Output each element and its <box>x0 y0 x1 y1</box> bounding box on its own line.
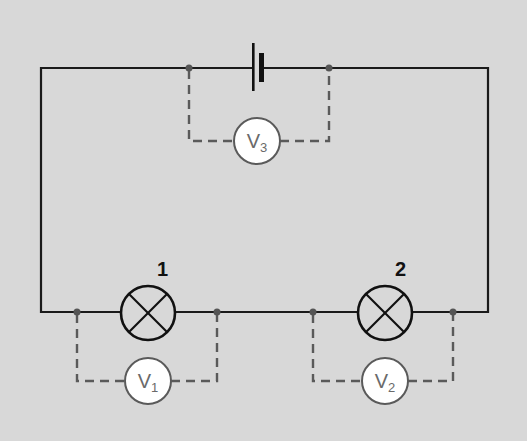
main-circuit-wire <box>41 68 488 312</box>
voltmeter-2-label: V2 <box>375 371 396 394</box>
circuit-diagram: 1 2 V3 V1 V2 <box>0 0 527 441</box>
voltmeter-subscript: 3 <box>260 140 267 155</box>
junction-dot <box>450 309 457 316</box>
voltmeter-1-label: V1 <box>138 371 159 394</box>
voltmeter-3-label: V3 <box>247 131 268 154</box>
circuit-canvas <box>0 0 527 441</box>
junction-dot <box>214 309 221 316</box>
junction-dot <box>310 309 317 316</box>
voltmeter-subscript: 1 <box>151 380 158 395</box>
lamp-1-icon <box>121 286 175 340</box>
lamp-2-label: 2 <box>395 259 406 279</box>
junction-dot <box>74 309 81 316</box>
voltmeter-symbol: V <box>375 370 388 392</box>
junction-dot <box>186 65 193 72</box>
lamp-2-icon <box>358 286 412 340</box>
battery-cell-icon <box>252 43 264 91</box>
voltmeter-symbol: V <box>247 130 260 152</box>
voltmeter-subscript: 2 <box>388 380 395 395</box>
voltmeter-symbol: V <box>138 370 151 392</box>
junction-dot <box>326 65 333 72</box>
lamp-1-label: 1 <box>157 259 168 279</box>
